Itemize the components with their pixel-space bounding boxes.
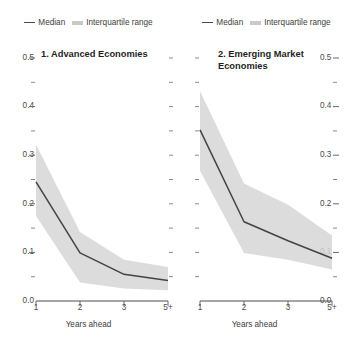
legend-right: Median Interquartile range (178, 18, 355, 27)
legend-swatch-median-line-icon (24, 22, 35, 23)
legend-swatch-median-line-icon (202, 22, 213, 23)
legend-label-iqr: Interquartile range (264, 18, 330, 27)
legend-item-iqr: Interquartile range (250, 18, 330, 27)
x-tick-label-3: 5+ (322, 303, 342, 312)
x-tick-label-1: 2 (70, 303, 90, 312)
x-tick-label-3: 5+ (158, 303, 178, 312)
legend-item-median: Median (24, 18, 65, 27)
x-axis-title-right: Years ahead (166, 320, 343, 329)
chart-figure: Median Interquartile range 1. Advanced E… (0, 0, 355, 342)
legend-item-iqr: Interquartile range (72, 18, 152, 27)
legend-swatch-iqr-band-icon (250, 21, 261, 25)
legend-swatch-iqr-band-icon (72, 21, 83, 25)
x-tick-label-2: 3 (114, 303, 134, 312)
x-axis-title-left: Years ahead (0, 320, 177, 329)
y-tick-label-2: 0.3 (8, 150, 34, 159)
x-tick-label-0: 1 (190, 303, 210, 312)
y-tick-label-1: 0.4 (8, 101, 34, 110)
chart-panel-advanced-economies: Median Interquartile range 1. Advanced E… (0, 0, 177, 342)
x-tick-label-2: 3 (278, 303, 298, 312)
legend-left: Median Interquartile range (0, 18, 177, 27)
legend-label-iqr: Interquartile range (86, 18, 152, 27)
x-tick-label-1: 2 (234, 303, 254, 312)
iqr-band-right (200, 91, 332, 269)
chart-panel-emerging-market-economies: Median Interquartile range 2. Emerging M… (178, 0, 355, 342)
x-tick-label-0: 1 (26, 303, 46, 312)
legend-label-median: Median (38, 18, 65, 27)
y-tick-label-4: 0.1 (8, 247, 34, 256)
legend-item-median: Median (202, 18, 243, 27)
iqr-band-left (36, 145, 168, 291)
plot-area-right (200, 58, 332, 301)
plot-area-left (36, 58, 168, 301)
legend-label-median: Median (216, 18, 243, 27)
